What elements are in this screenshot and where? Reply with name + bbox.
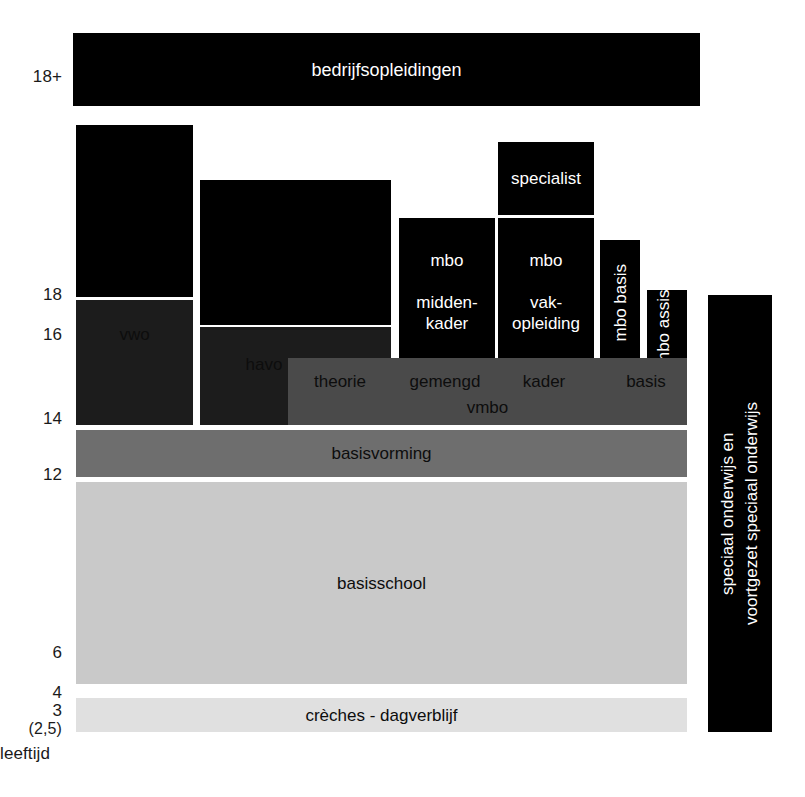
block-label-vwo: vwo bbox=[76, 326, 193, 343]
block-label-mbo-basis: mbo basis bbox=[610, 264, 631, 341]
block-label-vmbo-theorie: theorie bbox=[300, 373, 380, 390]
block-mbo-vakopleiding[interactable]: mbo vak- opleiding bbox=[498, 218, 594, 366]
education-system-diagram: 18+ 18 16 14 12 6 4 3 (2,5) leeftijd bed… bbox=[0, 0, 805, 797]
block-basisvorming[interactable]: basisvorming bbox=[76, 430, 687, 477]
block-havo-upper[interactable] bbox=[200, 180, 391, 325]
axis-tick-3: 3 bbox=[0, 702, 62, 719]
axis-caption-leeftijd: leeftijd bbox=[0, 745, 76, 762]
block-label-bedrijfsopleidingen: bedrijfsopleidingen bbox=[311, 59, 461, 81]
block-mbo-middenkader[interactable]: mbo midden- kader bbox=[399, 218, 495, 366]
block-specialist[interactable]: specialist bbox=[498, 142, 594, 215]
block-label-mbo-vakopleiding: mbo vak- opleiding bbox=[512, 250, 580, 334]
block-label-speciaal-onderwijs: speciaal onderwijs en voortgezet speciaa… bbox=[716, 402, 764, 625]
block-label-creches-dagverblijf: crèches - dagverblijf bbox=[305, 705, 457, 726]
axis-tick-4: 4 bbox=[0, 684, 62, 701]
axis-tick-18plus: 18+ bbox=[0, 68, 62, 85]
cropped-caption-remnant bbox=[0, 0, 805, 18]
axis-tick-16: 16 bbox=[0, 326, 62, 343]
axis-tick-12: 12 bbox=[0, 466, 62, 483]
axis-tick-14: 14 bbox=[0, 410, 62, 427]
block-vwo-upper[interactable] bbox=[76, 125, 193, 297]
block-label-vmbo-basis: basis bbox=[610, 373, 682, 390]
axis-tick-18: 18 bbox=[0, 286, 62, 303]
block-vwo-lower[interactable] bbox=[76, 300, 193, 425]
axis-tick-2-5: (2,5) bbox=[0, 720, 62, 737]
block-label-basisschool: basisschool bbox=[337, 573, 426, 594]
block-label-vmbo-gemengd: gemengd bbox=[400, 373, 490, 390]
block-bedrijfsopleidingen[interactable]: bedrijfsopleidingen bbox=[73, 33, 700, 106]
block-label-mbo-assistent: mbo assistent bbox=[655, 224, 672, 366]
block-speciaal-onderwijs[interactable]: speciaal onderwijs en voortgezet speciaa… bbox=[708, 295, 772, 732]
block-label-basisvorming: basisvorming bbox=[331, 443, 431, 464]
block-label-mbo-middenkader: mbo midden- kader bbox=[416, 250, 477, 334]
block-creches-dagverblijf[interactable]: crèches - dagverblijf bbox=[76, 698, 687, 732]
block-label-vmbo-kader: kader bbox=[505, 373, 583, 390]
axis-tick-6: 6 bbox=[0, 644, 62, 661]
block-basisschool[interactable]: basisschool bbox=[76, 482, 687, 684]
block-label-vmbo: vmbo bbox=[288, 399, 687, 416]
block-mbo-basis[interactable]: mbo basis bbox=[600, 240, 640, 366]
block-label-specialist: specialist bbox=[511, 168, 581, 189]
